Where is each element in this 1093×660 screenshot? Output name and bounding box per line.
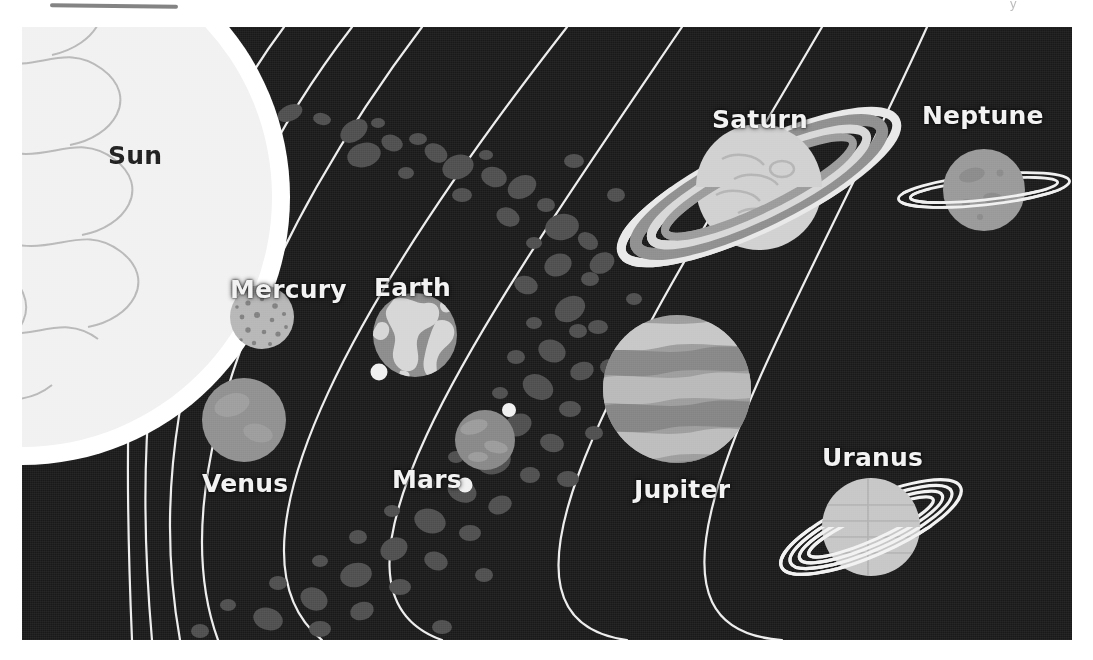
label-venus: Venus [202,471,288,496]
body-jupiter [597,315,762,483]
body-neptune [897,149,1071,231]
label-mercury: Mercury [230,277,347,302]
mars-moon-phobos [502,403,516,417]
body-mars [455,410,515,470]
label-saturn: Saturn [712,107,808,132]
label-jupiter: Jupiter [634,477,730,502]
label-neptune: Neptune [922,103,1044,128]
label-earth: Earth [374,275,451,300]
label-uranus: Uranus [822,445,923,470]
body-uranus [770,462,972,593]
label-mars: Mars [392,467,462,492]
label-sun: Sun [108,143,162,168]
scan-rule-artifact [50,3,178,8]
celestial-bodies [22,27,1072,640]
earth-moon [371,364,388,381]
solar-system-illustration: Sun Mercury Venus Earth Mars Jupiter Sat… [22,27,1072,640]
body-venus [202,378,286,462]
scanned-page: y [0,0,1093,660]
scan-text-artifact: y [1010,0,1018,11]
